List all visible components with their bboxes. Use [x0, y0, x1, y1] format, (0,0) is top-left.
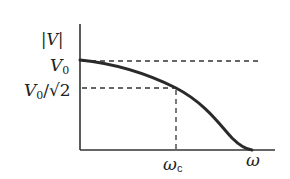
low-pass-filter-diagram: |V| V0 V0/√2 ωc ω — [0, 0, 290, 179]
v0-label: V0 — [50, 55, 69, 77]
response-curve — [80, 60, 252, 150]
y-axis-label: |V| — [41, 30, 63, 49]
x-axis-label: ω — [246, 150, 260, 170]
v0-sqrt2-label: V0/√2 — [24, 80, 71, 102]
cutoff-frequency-label: ωc — [163, 154, 183, 174]
